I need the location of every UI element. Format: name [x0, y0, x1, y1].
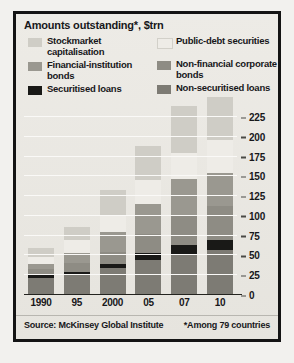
y-axis-tick-225: 225: [241, 112, 281, 123]
legend-swatch-non_securitised_loans: [157, 85, 171, 94]
legend-column-right: Public-debt securitiesNon-financial corp…: [157, 36, 281, 106]
y-axis-tick-50: 50: [241, 250, 281, 261]
gridline-25: [24, 274, 237, 275]
gridline-175: [24, 156, 237, 157]
y-axis-tick-label: 100: [249, 210, 265, 221]
gridline-225: [24, 116, 237, 117]
gridline-50: [24, 254, 237, 255]
y-axis-tick-label: 25: [249, 270, 260, 281]
chart-title: Amounts outstanding*, $trn: [24, 19, 164, 31]
tick-mark-icon: [241, 256, 246, 258]
bar-segment: [171, 215, 197, 245]
y-axis-tick-200: 200: [241, 131, 281, 142]
chart-legend: Stockmarket capitalisationFinancial-inst…: [24, 36, 276, 108]
bar-segment: [171, 245, 197, 254]
bar-segment: [207, 140, 233, 173]
bar-slot-2000: [100, 117, 126, 295]
y-axis-tick-125: 125: [241, 191, 281, 202]
axis-baseline: [24, 294, 242, 296]
y-axis: 0255075100125150175200225: [241, 117, 281, 295]
bar-segment: [135, 204, 161, 234]
chart-screenshot: Amounts outstanding*, $trn Stockmarket c…: [0, 0, 294, 363]
footnote-label: *Among 79 countries: [184, 320, 274, 330]
gridline-125: [24, 195, 237, 196]
bar-slot-05: [135, 117, 161, 295]
bar-segment: [100, 190, 126, 215]
bar-segment: [28, 248, 54, 257]
y-axis-tick-label: 175: [249, 151, 265, 162]
y-axis-tick-label: 0: [249, 290, 254, 301]
tick-mark-icon: [241, 157, 246, 159]
bar-slot-07: [171, 117, 197, 295]
y-axis-tick-0: 0: [241, 290, 281, 301]
source-label: Source: McKinsey Global Institute: [24, 320, 163, 330]
bar-segment: [207, 240, 233, 249]
legend-swatch-stockmarket_capitalisation: [28, 38, 42, 47]
tick-mark-icon: [241, 176, 246, 178]
y-axis-tick-175: 175: [241, 151, 281, 162]
bar-slot-1990: [28, 117, 54, 295]
x-axis-tick-05: 05: [135, 297, 161, 313]
legend-item-securitised_loans[interactable]: Securitised loans: [28, 84, 156, 104]
bar-segment: [207, 250, 233, 295]
bar-group: [24, 117, 237, 295]
tick-mark-icon: [241, 295, 246, 297]
y-axis-tick-label: 225: [249, 112, 265, 123]
bar-segment: [64, 240, 90, 253]
gridline-100: [24, 215, 237, 216]
legend-item-financial_institution_bonds[interactable]: Financial-institution bonds: [28, 60, 156, 81]
bar-segment: [135, 234, 161, 253]
chart-footer: Source: McKinsey Global Institute *Among…: [24, 320, 274, 330]
legend-label-public_debt_securities: Public-debt securities: [176, 36, 281, 47]
x-axis-tick-1990: 1990: [28, 297, 54, 313]
gridline-200: [24, 136, 237, 137]
bar-segment: [64, 274, 90, 295]
legend-item-stockmarket_capitalisation[interactable]: Stockmarket capitalisation: [28, 36, 156, 57]
bar-segment: [135, 260, 161, 295]
stacked-bar-95[interactable]: [64, 227, 90, 295]
tick-mark-icon: [241, 137, 246, 139]
y-axis-tick-label: 200: [249, 131, 265, 142]
x-axis-tick-10: 10: [207, 297, 233, 313]
bar-segment: [171, 179, 197, 215]
y-axis-tick-label: 150: [249, 171, 265, 182]
stacked-bar-2000[interactable]: [100, 190, 126, 295]
bar-segment: [28, 257, 54, 264]
y-axis-tick-label: 50: [249, 250, 260, 261]
bar-segment: [100, 268, 126, 295]
bar-slot-95: [64, 117, 90, 295]
y-axis-tick-150: 150: [241, 171, 281, 182]
y-axis-tick-100: 100: [241, 210, 281, 221]
y-axis-tick-25: 25: [241, 270, 281, 281]
legend-label-non_financial_corporate_bonds: Non-financial corporate bonds: [176, 59, 281, 80]
bar-segment: [171, 106, 197, 153]
bar-segment: [207, 97, 233, 140]
stacked-bar-10[interactable]: [207, 97, 233, 295]
bar-segment: [100, 252, 126, 265]
x-axis-tick-95: 95: [64, 297, 90, 313]
x-axis: 1990952000050710: [24, 297, 237, 313]
x-axis-tick-2000: 2000: [100, 297, 126, 313]
tick-mark-icon: [241, 236, 246, 238]
gridline-150: [24, 175, 237, 176]
legend-label-non_securitised_loans: Non-securitised loans: [176, 83, 281, 94]
bar-segment: [100, 215, 126, 232]
stacked-bar-07[interactable]: [171, 106, 197, 295]
legend-swatch-financial_institution_bonds: [28, 62, 42, 71]
legend-swatch-non_financial_corporate_bonds: [157, 61, 171, 70]
legend-swatch-securitised_loans: [28, 86, 42, 95]
y-axis-tick-label: 75: [249, 230, 260, 241]
tick-mark-icon: [241, 117, 246, 119]
tick-mark-icon: [241, 275, 246, 277]
chart-card: Amounts outstanding*, $trn Stockmarket c…: [13, 11, 281, 342]
legend-swatch-public_debt_securities: [157, 38, 173, 49]
legend-item-non_financial_corporate_bonds[interactable]: Non-financial corporate bonds: [157, 59, 281, 80]
legend-item-public_debt_securities[interactable]: Public-debt securities: [157, 36, 281, 56]
bar-segment: [28, 278, 54, 295]
stacked-bar-05[interactable]: [135, 146, 161, 295]
x-axis-tick-07: 07: [171, 297, 197, 313]
legend-label-financial_institution_bonds: Financial-institution bonds: [47, 60, 156, 81]
bar-segment: [135, 180, 161, 204]
tick-mark-icon: [241, 196, 246, 198]
y-axis-tick-75: 75: [241, 230, 281, 241]
